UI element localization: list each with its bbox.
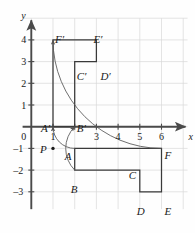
origin-label: 0 [21, 132, 26, 142]
x-axis-label: x [189, 132, 193, 142]
y-axis-label: y [21, 11, 25, 21]
vertex-label: C′ [77, 71, 87, 82]
x-tick-label: 5 [137, 132, 142, 142]
x-tick-label: 6 [159, 132, 164, 142]
vertex-label: F [165, 150, 172, 161]
vertex-label: F′ [55, 34, 64, 45]
y-tick-label: 2 [21, 79, 26, 89]
vertex-label: E′ [93, 34, 102, 45]
y-tick-label: –2 [13, 166, 23, 176]
vertex-label: A [65, 151, 72, 162]
rotation-figure: 134564321–1–2–30xyABCDEFA′B′C′D′E′F′P [0, 0, 195, 233]
x-tick-label: 3 [94, 132, 99, 142]
x-tick-label: 1 [51, 132, 56, 142]
vertex-label: C [129, 170, 136, 181]
y-tick-label: 1 [21, 101, 26, 111]
center-point-label: P [40, 144, 47, 155]
y-tick-label: 3 [21, 57, 26, 67]
vertex-label: B′ [77, 123, 86, 134]
vertex-label: E [165, 206, 172, 217]
center-point-dot [51, 147, 54, 150]
vertex-label: B [71, 184, 78, 195]
vertex-label: D′ [100, 71, 110, 82]
y-tick-label: –1 [13, 144, 23, 154]
x-tick-label: 4 [116, 132, 121, 142]
vertex-label: A′ [41, 123, 50, 134]
y-tick-label: –3 [13, 187, 23, 197]
y-tick-label: 4 [21, 35, 26, 45]
vertex-label: D [137, 206, 145, 217]
arc-F-to-F-prime [53, 40, 162, 148]
